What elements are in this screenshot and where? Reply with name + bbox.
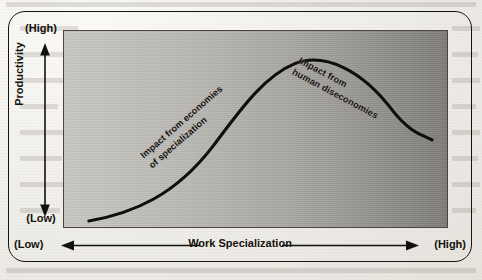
bleed-text-line [6, 2, 476, 7]
y-axis-title: Productivity [13, 29, 25, 119]
x-axis: (Low) (High) Work Specialization [14, 236, 466, 256]
plot-area: Impact from economies of specialization … [63, 30, 448, 228]
productivity-curve [64, 31, 447, 227]
x-axis-title-text: Work Specialization [181, 237, 299, 249]
bleed-text-line [6, 268, 476, 273]
x-axis-title: Work Specialization [14, 237, 466, 249]
figure-page: (High) (Low) Productivity Impact from ec… [0, 0, 482, 280]
y-axis-arrow-icon [27, 42, 63, 218]
